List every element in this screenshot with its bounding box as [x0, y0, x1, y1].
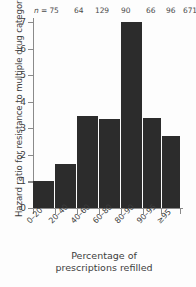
- x-axis-title-line2: prescriptions refilled: [20, 262, 188, 274]
- n-label-0-value: = 75: [39, 6, 59, 15]
- plot-area: [33, 22, 182, 208]
- x-axis-title-line1: Percentage of: [20, 250, 188, 262]
- n-label-1: 64: [74, 6, 83, 15]
- bar-5: [143, 118, 161, 208]
- bar-6: [162, 136, 180, 208]
- x-tick-label-6: ≥95: [155, 207, 173, 225]
- n-label-5: 96: [166, 6, 175, 15]
- bar-2: [77, 116, 98, 208]
- n-label-6: 671: [183, 6, 196, 15]
- y-axis-title: Hazard ratio for resistance to multiple …: [14, 17, 24, 217]
- n-label-3: 90: [121, 6, 130, 15]
- x-axis-title: Percentage of prescriptions refilled: [20, 250, 188, 273]
- caption-sliver: [0, 278, 196, 287]
- x-axis-tick-labels: 0–20 20–40 40–60 60–80 80–90 90–95 ≥95: [0, 214, 196, 254]
- bar-1: [55, 164, 76, 208]
- bar-3: [99, 119, 120, 208]
- figure-bar-chart: n = 75 64 129 90 66 96 671 7 6 5 4 3 2 1…: [0, 0, 196, 287]
- sample-size-annotations: n = 75 64 129 90 66 96 671: [33, 6, 185, 19]
- n-label-4: 66: [146, 6, 155, 15]
- n-label-0: n = 75: [34, 6, 59, 15]
- bar-4: [121, 22, 142, 208]
- bar-0: [33, 181, 54, 208]
- n-label-2: 129: [95, 6, 109, 15]
